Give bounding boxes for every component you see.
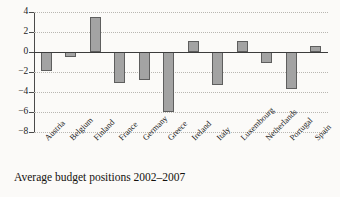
chart-caption: Average budget positions 2002–2007 bbox=[14, 170, 185, 184]
gridline bbox=[34, 92, 328, 93]
bar bbox=[212, 52, 223, 85]
bar bbox=[139, 52, 150, 80]
bar bbox=[90, 17, 101, 52]
y-tick-label: −8 bbox=[2, 127, 28, 137]
bar bbox=[114, 52, 125, 83]
bar bbox=[237, 41, 248, 52]
y-tick-label: −2 bbox=[2, 67, 28, 77]
bar bbox=[261, 52, 272, 63]
gridline bbox=[34, 112, 328, 113]
gridline bbox=[34, 32, 328, 33]
bar bbox=[188, 41, 199, 52]
bar bbox=[41, 52, 52, 71]
bar bbox=[286, 52, 297, 89]
y-tick-label: −6 bbox=[2, 107, 28, 117]
y-tick-label: 4 bbox=[2, 7, 28, 17]
chart-figure: 420−2−4−6−8 AustriaBelgiumFinlandFranceG… bbox=[0, 0, 340, 197]
zero-baseline bbox=[34, 52, 328, 53]
y-tick-label: 0 bbox=[2, 47, 28, 57]
bar bbox=[163, 52, 174, 112]
gridline bbox=[34, 72, 328, 73]
plot-area bbox=[34, 12, 328, 132]
y-tick-label: −4 bbox=[2, 87, 28, 97]
y-tick-label: 2 bbox=[2, 27, 28, 37]
gridline bbox=[34, 12, 328, 13]
